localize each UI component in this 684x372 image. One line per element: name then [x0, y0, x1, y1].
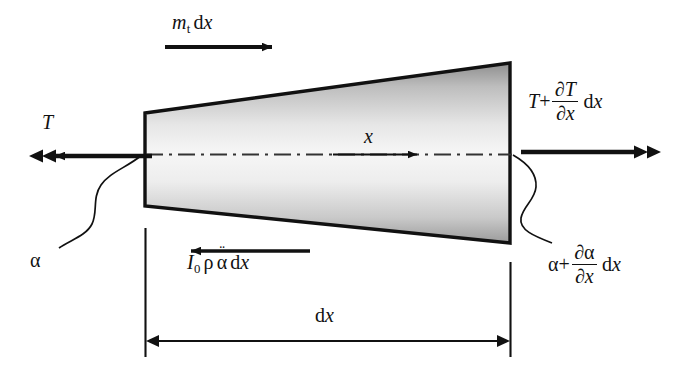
- label-torque-left: T: [42, 112, 53, 132]
- alpha-right-symbol: α: [548, 253, 558, 275]
- dimension-extension-lines: [146, 228, 511, 357]
- torque-left-symbol: T: [42, 111, 53, 133]
- alpha-right-denominator: ∂x: [572, 265, 597, 288]
- label-element-length: dx: [315, 305, 334, 325]
- label-twist-left: α: [30, 250, 40, 270]
- mt-subscript: t: [187, 22, 191, 36]
- inertia-symbol: I: [187, 251, 194, 273]
- alpha-right-differential-d: d: [602, 253, 612, 275]
- label-axial-coordinate: x: [364, 126, 373, 146]
- inertia-differential-d: d: [230, 251, 240, 273]
- mt-differential-d: d: [193, 11, 203, 33]
- x-symbol: x: [364, 125, 373, 147]
- alpha-left-leader-line: [59, 155, 142, 248]
- torque-right-symbol: T: [528, 90, 539, 112]
- torque-right-differential-x: x: [593, 90, 602, 112]
- torque-right-differential-d: d: [583, 90, 593, 112]
- mt-symbol: m: [172, 11, 186, 33]
- alpha-right-differential-x: x: [612, 253, 621, 275]
- torque-right-denominator: ∂x: [552, 102, 578, 125]
- label-twist-right: α+ ∂α ∂x dx: [548, 243, 621, 289]
- inertia-subscript: 0: [194, 262, 200, 276]
- mt-differential-x: x: [203, 11, 212, 33]
- alpha-right-numerator: ∂α: [572, 242, 597, 266]
- alpha-right-fraction: ∂α ∂x: [572, 242, 597, 288]
- inertia-double-dot: ¨: [220, 244, 225, 260]
- torque-right-fraction: ∂T ∂x: [552, 79, 578, 125]
- label-torque-right: T+ ∂T ∂x dx: [528, 80, 602, 126]
- alpha-right-plus: +: [558, 253, 569, 275]
- torque-right-plus: +: [539, 90, 550, 112]
- alpha-left-symbol: α: [30, 249, 40, 271]
- label-rotary-inertia: I0ρ¨αdx: [187, 252, 249, 275]
- torque-right-arrow: [521, 146, 661, 159]
- label-applied-torque: mtdx: [172, 12, 212, 35]
- inertia-angular-acceleration: ¨α: [217, 252, 227, 272]
- dx-dim-x: x: [325, 304, 334, 326]
- inertia-differential-x: x: [240, 251, 249, 273]
- diagram-svg: [0, 0, 684, 372]
- dimension-arrow-dx: [146, 335, 510, 347]
- inertia-density-symbol: ρ: [204, 251, 214, 273]
- dx-dim-d: d: [315, 304, 325, 326]
- shaft-element-body: [145, 63, 510, 243]
- diagram-canvas: mtdx T T+ ∂T ∂x dx x α α+ ∂α ∂x dx I0ρ¨α…: [0, 0, 684, 372]
- torque-right-numerator: ∂T: [552, 79, 578, 103]
- alpha-right-leader-line: [513, 155, 552, 243]
